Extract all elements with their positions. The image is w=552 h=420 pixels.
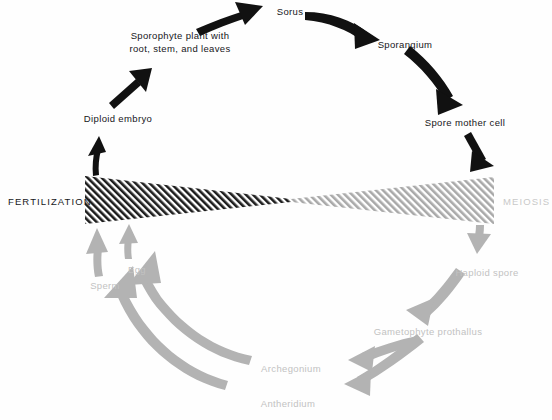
cycle-graphics	[0, 0, 552, 420]
fern-life-cycle-diagram: FERTILIZATION MEIOSIS Diploid embryo Spo…	[0, 0, 552, 420]
arrow-meiosis-to-haploid-spore	[467, 225, 491, 254]
hourglass-band-group	[85, 176, 494, 224]
stage-label-sorus: Sorus	[277, 6, 304, 19]
stage-label-sporangium: Sporangium	[378, 39, 433, 52]
arrow-egg-to-fertilization	[119, 224, 138, 259]
stage-label-diploid-embryo: Diploid embryo	[84, 113, 152, 126]
arrow-sporangium-to-spore-mother-cell	[404, 46, 463, 115]
band-right-triangle	[291, 177, 494, 224]
phase-label-fertilization: FERTILIZATION	[8, 196, 92, 209]
sporophyte-plant-line-2: root, stem, and leaves	[129, 43, 230, 56]
sporophyte-arrow-group	[88, 2, 494, 176]
arrow-spore-mother-cell-to-meiosis	[464, 132, 494, 172]
sporophyte-plant-line-1: Sporophyte plant with	[129, 30, 230, 43]
stage-label-sperm: Sperm	[90, 280, 120, 293]
phase-label-meiosis: MEIOSIS	[503, 196, 550, 209]
arrow-prothallus-to-antheridium	[344, 334, 424, 396]
stage-label-archegonium: Archegonium	[261, 363, 321, 376]
arrow-embryo-to-sporophyte-plant	[109, 68, 152, 109]
stage-label-antheridium: Antheridium	[261, 398, 316, 411]
stage-label-egg: Egg	[128, 264, 146, 277]
arrow-fertilization-to-embryo	[88, 136, 106, 176]
arrow-antheridium-to-sperm	[104, 266, 228, 390]
arrow-archegonium-to-egg	[128, 251, 252, 365]
stage-label-sporophyte-plant: Sporophyte plant with root, stem, and le…	[129, 30, 230, 55]
stage-label-haploid-spore: Haploid spore	[455, 267, 518, 280]
arrow-sorus-to-sporangium	[305, 12, 380, 49]
stage-label-spore-mother-cell: Spore mother cell	[425, 117, 505, 130]
band-left-triangle	[85, 176, 291, 224]
arrow-sperm-to-fertilization	[86, 228, 108, 277]
stage-label-gametophyte-prothallus: Gametophyte prothallus	[374, 326, 483, 339]
